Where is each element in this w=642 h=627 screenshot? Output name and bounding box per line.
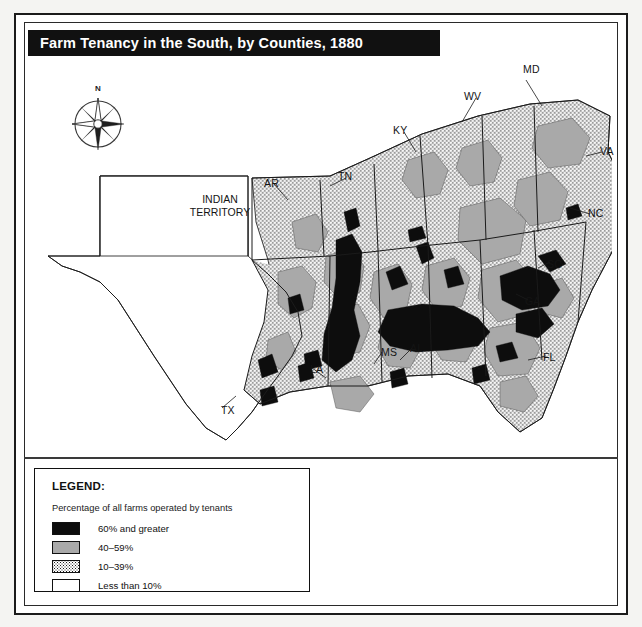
legend-item-black: 60% and greater [52, 521, 169, 536]
legend-heading: LEGEND: [52, 480, 105, 492]
state-label-sc: SC [547, 258, 562, 270]
state-label-ky: KY [393, 124, 407, 136]
state-label-fl: FL [543, 351, 556, 363]
legend-item-white: Less than 10% [52, 578, 161, 593]
compass-rose-icon [66, 95, 130, 155]
legend-swatch-stip [52, 560, 80, 573]
map-title-bar: Farm Tenancy in the South, by Counties, … [28, 30, 440, 56]
label-indian-territory: INDIAN TERRITORY [175, 193, 265, 219]
legend-box: LEGEND: Percentage of all farms operated… [34, 468, 310, 592]
legend-label: 60% and greater [98, 523, 169, 534]
page-root: Farm Tenancy in the South, by Counties, … [0, 0, 642, 627]
state-label-tx: TX [221, 404, 235, 416]
state-label-la: LA [310, 363, 323, 375]
state-label-nc: NC [588, 207, 604, 219]
legend-item-gray: 40–59% [52, 540, 133, 555]
state-label-tn: TN [338, 170, 352, 182]
state-label-md: MD [523, 63, 540, 75]
state-label-al: AL [410, 342, 423, 354]
legend-label: 40–59% [98, 542, 133, 553]
state-label-ga: GA [525, 295, 541, 307]
state-label-wv: WV [464, 90, 481, 102]
compass-north-label: N [66, 84, 130, 93]
page-title: Farm Tenancy in the South, by Counties, … [28, 35, 363, 51]
legend-subtitle: Percentage of all farms operated by tena… [52, 503, 232, 513]
state-label-va: VA [600, 145, 614, 157]
state-label-ar: AR [264, 177, 279, 189]
legend-item-stip: 10–39% [52, 559, 133, 574]
legend-swatch-black [52, 522, 80, 535]
legend-divider [24, 457, 618, 459]
legend-label: Less than 10% [98, 580, 161, 591]
compass-rose: N [66, 84, 130, 156]
legend-label: 10–39% [98, 561, 133, 572]
legend-swatch-white [52, 579, 80, 592]
legend-swatch-gray [52, 541, 80, 554]
state-label-ms: MS [381, 346, 397, 358]
